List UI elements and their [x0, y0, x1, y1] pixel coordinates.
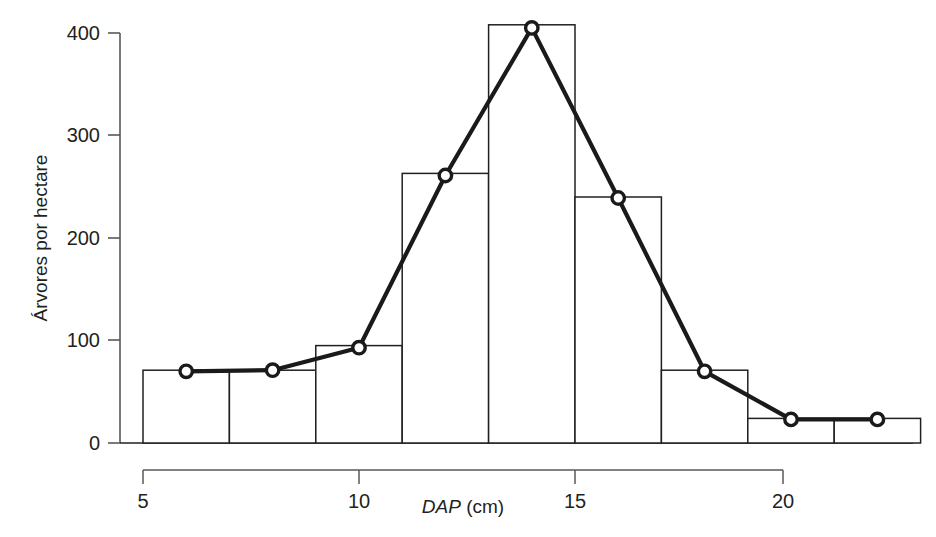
- y-tick-label-0: 0: [89, 432, 100, 454]
- y-tick-label-100: 100: [67, 329, 100, 351]
- chart-figure: 400 300 200 100 0 Árvores por hectare: [0, 0, 936, 537]
- marker-18: [698, 365, 710, 377]
- marker-10: [353, 342, 365, 354]
- y-axis: [108, 33, 120, 443]
- x-axis: [143, 470, 783, 484]
- x-axis-title-variable: DAP: [422, 496, 461, 517]
- histogram-chart: 400 300 200 100 0 Árvores por hectare: [0, 0, 936, 537]
- bar-5-7: [143, 370, 229, 443]
- marker-16: [612, 192, 624, 204]
- bar-17-19: [661, 370, 747, 443]
- bar-15-17: [575, 197, 661, 443]
- marker-8: [266, 364, 278, 376]
- y-axis-title: Árvores por hectare: [30, 155, 51, 322]
- marker-14: [526, 22, 538, 34]
- histogram-bars: [143, 25, 921, 443]
- marker-22: [871, 413, 883, 425]
- bar-9-11: [316, 346, 402, 443]
- x-tick-label-10: 10: [348, 490, 370, 512]
- y-tick-label-400: 400: [67, 22, 100, 44]
- marker-20: [785, 413, 797, 425]
- x-tick-label-15: 15: [564, 490, 586, 512]
- bar-11-13: [402, 173, 488, 443]
- y-tick-label-300: 300: [67, 124, 100, 146]
- x-tick-label-20: 20: [772, 490, 794, 512]
- x-axis-title: DAP (cm): [422, 496, 504, 517]
- marker-12: [439, 169, 451, 181]
- x-tick-label-5: 5: [137, 490, 148, 512]
- bar-7-9: [229, 370, 315, 443]
- y-tick-label-200: 200: [67, 227, 100, 249]
- marker-6: [180, 365, 192, 377]
- x-axis-title-unit: (cm): [461, 496, 504, 517]
